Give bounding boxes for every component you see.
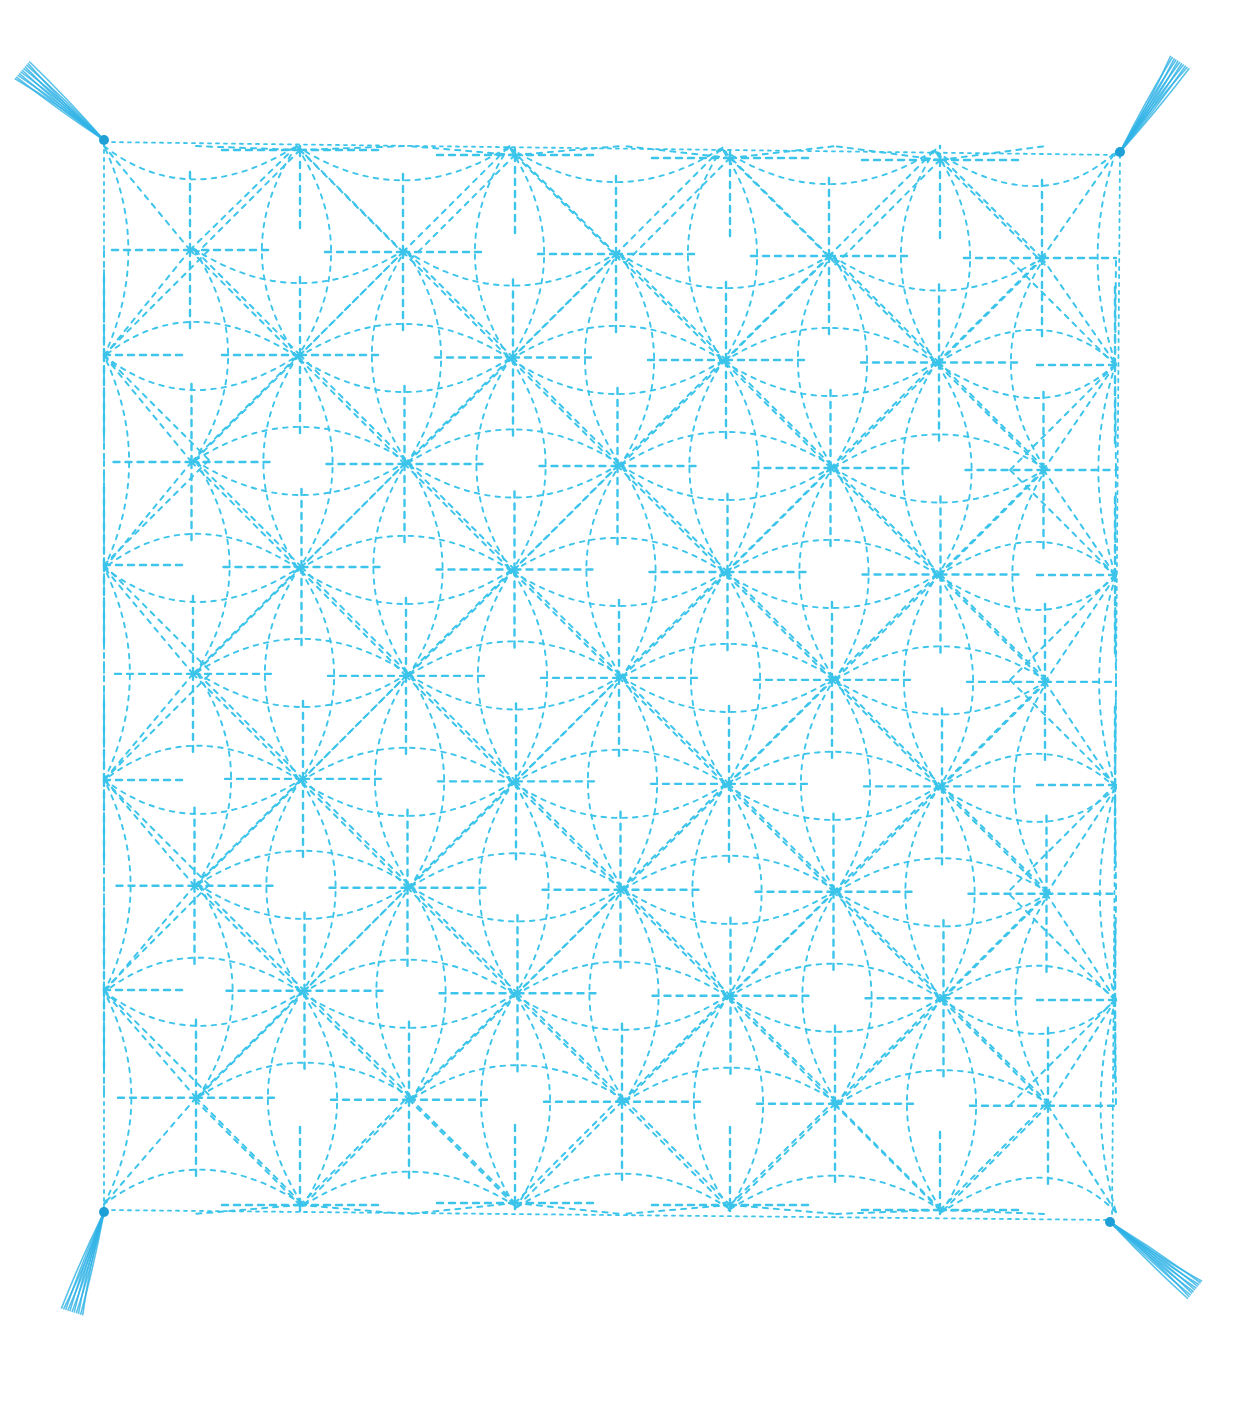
diagonal-spoke bbox=[104, 565, 211, 672]
petal-arc bbox=[104, 1170, 303, 1205]
petal-arc bbox=[939, 575, 1117, 610]
diagonal-spoke bbox=[937, 363, 1044, 470]
diagonal-spoke bbox=[409, 1100, 516, 1207]
diagonal-spoke bbox=[510, 148, 617, 255]
diagonal-spoke bbox=[1044, 363, 1117, 470]
diagonal-spoke bbox=[944, 998, 1051, 1105]
diagonal-spoke bbox=[730, 146, 837, 158]
diagonal-spoke bbox=[104, 462, 192, 569]
diagonal-spoke bbox=[515, 155, 622, 262]
diagonal-spoke bbox=[104, 567, 193, 674]
diagonal-spoke bbox=[104, 674, 211, 781]
diagonal-spoke bbox=[104, 990, 211, 1097]
diagonal-spoke bbox=[516, 1102, 623, 1209]
diagonal-spoke bbox=[405, 464, 512, 571]
diagonal-spoke bbox=[829, 256, 936, 363]
diagonal-spoke bbox=[104, 991, 196, 1098]
diagonal-spoke bbox=[622, 995, 729, 1102]
petal-arc bbox=[940, 966, 1116, 1001]
diagonal-spoke bbox=[409, 1097, 516, 1204]
diagonal-spoke bbox=[515, 1097, 622, 1204]
diagonal-spoke bbox=[1044, 470, 1117, 577]
diagonal-spoke bbox=[939, 575, 1046, 682]
diagonal-spoke bbox=[616, 254, 723, 361]
diagonal-spoke bbox=[305, 991, 412, 1098]
diagonal-spoke bbox=[832, 573, 939, 680]
diagonal-spoke bbox=[515, 1203, 622, 1214]
diagonal-spoke bbox=[731, 996, 838, 1103]
diagonal-spoke bbox=[411, 887, 518, 994]
diagonal-spoke bbox=[516, 781, 623, 888]
diagonal-spoke bbox=[193, 567, 300, 674]
diagonal-spoke bbox=[514, 783, 621, 890]
diagonal-spoke bbox=[621, 783, 728, 890]
diagonal-spoke bbox=[940, 160, 1047, 267]
diagonal-spoke bbox=[1048, 999, 1116, 1106]
petal-arc bbox=[104, 146, 128, 357]
tassel-top-right bbox=[1115, 56, 1189, 157]
diagonal-spoke bbox=[620, 360, 727, 467]
diagonal-spoke bbox=[833, 256, 940, 363]
diagonal-spoke bbox=[624, 889, 731, 996]
diagonal-spoke bbox=[937, 470, 1044, 577]
diagonal-spoke bbox=[834, 1104, 941, 1211]
diagonal-spoke bbox=[1047, 894, 1117, 1001]
diagonal-spoke bbox=[1047, 787, 1117, 894]
diagonal-spoke bbox=[511, 359, 618, 466]
diagonal-spoke bbox=[620, 254, 727, 361]
diagonal-spoke bbox=[194, 355, 301, 462]
diagonal-spoke bbox=[408, 888, 515, 995]
diagonal-spoke bbox=[621, 572, 728, 679]
diagonal-spoke bbox=[1045, 575, 1116, 682]
diagonal-spoke bbox=[197, 672, 304, 779]
diagonal-spoke bbox=[1045, 682, 1116, 789]
diagonal-spoke bbox=[944, 892, 1051, 999]
diagonal-spoke bbox=[300, 355, 407, 462]
diagonal-spoke bbox=[300, 569, 407, 676]
diagonal-spoke bbox=[624, 1099, 731, 1206]
tassel-knot bbox=[99, 1207, 109, 1217]
tassel-knot bbox=[99, 135, 109, 145]
diagonal-spoke bbox=[190, 250, 297, 357]
diagonal-spoke bbox=[196, 991, 303, 1098]
diagonal-spoke bbox=[410, 675, 517, 782]
diagonal-spoke bbox=[104, 779, 195, 886]
petal-arc bbox=[940, 787, 1116, 822]
diagonal-spoke bbox=[192, 355, 299, 462]
diagonal-spoke bbox=[405, 357, 512, 464]
diagonal-spoke bbox=[730, 1205, 837, 1214]
diagonal-spoke bbox=[104, 459, 211, 566]
diagonal-spoke bbox=[409, 155, 516, 262]
diagonal-spoke bbox=[834, 146, 941, 160]
petal-arc bbox=[937, 542, 1116, 577]
diagonal-spoke bbox=[193, 674, 300, 781]
diagonal-spoke bbox=[513, 571, 620, 678]
diagonal-spoke bbox=[942, 1106, 1049, 1213]
diagonal-spoke bbox=[834, 468, 941, 575]
petal-arc bbox=[104, 991, 303, 1026]
diagonal-spoke bbox=[104, 146, 190, 250]
diagonal-spoke bbox=[190, 146, 297, 250]
diagonal-spoke bbox=[410, 781, 517, 888]
diagonal-spoke bbox=[940, 1104, 1047, 1211]
diagonal-spoke bbox=[726, 573, 833, 680]
tassel-knot bbox=[1105, 1217, 1115, 1227]
diagonal-spoke bbox=[198, 884, 305, 991]
diagonal-spoke bbox=[837, 892, 944, 999]
diagonal-spoke bbox=[104, 250, 190, 357]
diagonal-spoke bbox=[403, 252, 510, 359]
diagonal-spoke bbox=[834, 892, 941, 999]
diagonal-spoke bbox=[407, 251, 514, 358]
diagonal-spoke bbox=[513, 358, 620, 465]
diagonal-spoke bbox=[104, 355, 211, 462]
diagonal-spoke bbox=[834, 574, 941, 681]
diagonal-spoke bbox=[618, 466, 725, 573]
diagonal-spoke bbox=[836, 786, 943, 893]
border-bottom bbox=[104, 1210, 1112, 1220]
diagonal-spoke bbox=[407, 358, 514, 465]
diagonal-spoke bbox=[624, 1205, 731, 1214]
diagonal-spoke bbox=[942, 999, 1049, 1106]
tassel-bottom-right bbox=[1105, 1217, 1202, 1299]
diagonal-spoke bbox=[515, 569, 622, 676]
diagonal-spoke bbox=[1009, 469, 1116, 576]
